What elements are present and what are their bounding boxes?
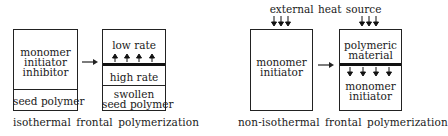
low-rate-label: low rate <box>102 40 166 50</box>
right-arrow-icon <box>82 58 98 66</box>
polymerization-front <box>340 63 401 66</box>
swollen-seed-label-2: seed polymer <box>102 99 166 109</box>
polymerization-front <box>103 63 165 66</box>
down-arrow-icon <box>348 67 394 76</box>
isothermal-reactants-label-3: inhibitor <box>13 67 78 77</box>
heat-arrow-icon <box>272 16 292 27</box>
heat-arrow-icon <box>360 16 380 27</box>
isothermal-caption: isothermal frontal polymerization <box>13 116 199 128</box>
up-arrow-icon <box>113 54 157 63</box>
right-arrow-icon <box>318 61 334 69</box>
monomer-initiator-label-2: initiator <box>339 91 402 101</box>
swollen-seed-divider <box>103 85 165 86</box>
heat-source-label: external heat source <box>250 4 401 14</box>
high-rate-label: high rate <box>102 72 166 82</box>
non-isothermal-caption: non-isothermal frontal polymerization <box>238 116 448 128</box>
seed-polymer-divider <box>14 89 77 90</box>
polymeric-material-label-2: material <box>339 50 402 60</box>
non-isothermal-reactants-label-2: initiator <box>250 67 313 77</box>
seed-polymer-label: seed polymer <box>13 96 78 106</box>
